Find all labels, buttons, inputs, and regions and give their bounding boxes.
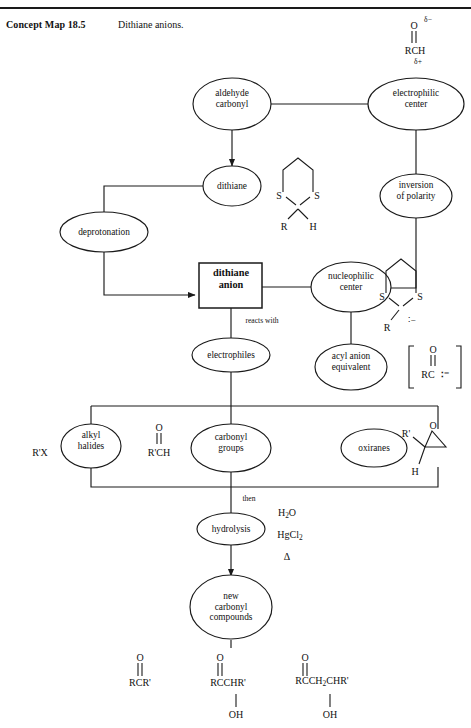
formula-aldehyde-electrophile-oxygen: O xyxy=(155,422,162,433)
condition-water: H2O xyxy=(278,507,296,520)
formula-acyl-charge: ∶⁻ xyxy=(441,369,449,380)
structure-product-ketone xyxy=(138,663,142,676)
node-dithiane[interactable] xyxy=(203,166,261,206)
product-ketone-oxygen: O xyxy=(136,652,143,663)
node-oxiranes[interactable] xyxy=(341,429,407,467)
node-nucleophilic-center[interactable] xyxy=(311,262,391,312)
formula-oxirane-r-prime: R' xyxy=(402,428,410,439)
node-electrophilic-center[interactable] xyxy=(368,78,464,130)
node-deprotonation[interactable] xyxy=(60,212,148,252)
bracket-left xyxy=(409,346,414,388)
concept-map-page: Concept Map 18.5 Dithiane anions. xyxy=(0,0,471,728)
formula-dithiane-anion-carbanion: ∶− xyxy=(408,315,415,325)
concept-map-graph xyxy=(0,0,471,728)
formula-aldehyde-electrophile-body: R'CH xyxy=(148,447,170,458)
formula-aldehyde-body: RCH xyxy=(405,45,426,56)
formula-dithiane-h: H xyxy=(309,221,316,232)
node-new-carbonyl-compounds[interactable] xyxy=(190,575,272,639)
formula-aldehyde-delta-plus: δ+ xyxy=(414,57,422,66)
edge-deprotonation-dithiane-anion xyxy=(104,250,195,295)
node-dithiane-anion[interactable] xyxy=(199,263,262,308)
node-acyl-anion-equivalent[interactable] xyxy=(315,344,387,390)
formula-oxirane-oxygen: O xyxy=(429,420,436,431)
node-alkyl-halides[interactable] xyxy=(61,424,121,468)
condition-mercuric-chloride: HgCl2 xyxy=(277,529,302,542)
node-electrophiles[interactable] xyxy=(192,338,270,372)
product-beta-hydroxy-oxygen: O xyxy=(301,652,308,663)
bracket-right xyxy=(456,346,461,388)
formula-dithiane-s-right: S xyxy=(314,190,320,201)
formula-dithiane-s-left: S xyxy=(276,190,282,201)
product-ketone-body: RCR' xyxy=(129,677,151,688)
product-alpha-hydroxy-oxygen: O xyxy=(216,652,223,663)
formula-alkyl-halide: R'X xyxy=(32,447,48,458)
product-alpha-hydroxy-oh: OH xyxy=(229,709,243,720)
formula-aldehyde-delta-minus: δ− xyxy=(424,15,432,24)
structure-oxirane xyxy=(413,431,446,464)
node-aldehyde-carbonyl[interactable] xyxy=(193,78,271,130)
structure-dithiane xyxy=(283,158,313,219)
formula-dithiane-anion-r: R xyxy=(384,322,391,333)
formula-dithiane-anion-s-left: S xyxy=(379,291,385,302)
formula-dithiane-r: R xyxy=(281,221,288,232)
formula-oxirane-h: H xyxy=(411,466,418,477)
formula-dithiane-anion-s-right: S xyxy=(417,291,423,302)
bus-bottom xyxy=(91,467,438,487)
edge-label-then: then xyxy=(242,494,255,503)
formula-acyl-body: RC xyxy=(421,369,434,380)
node-inversion-of-polarity[interactable] xyxy=(380,174,452,218)
formula-acyl-oxygen: O xyxy=(429,344,436,355)
edge-dithiane-deprotonation xyxy=(104,186,203,214)
product-beta-hydroxy-body: RCCH2CHR' xyxy=(295,675,348,689)
node-carbonyl-groups[interactable] xyxy=(191,424,271,472)
edge-label-reacts-with: reacts with xyxy=(245,316,278,325)
node-hydrolysis[interactable] xyxy=(197,513,265,545)
product-beta-hydroxy-oh: OH xyxy=(323,709,337,720)
formula-aldehyde-oxygen: O xyxy=(410,20,417,31)
condition-heat: Δ xyxy=(284,551,290,562)
product-alpha-hydroxy-body: RCCHR' xyxy=(210,677,246,688)
